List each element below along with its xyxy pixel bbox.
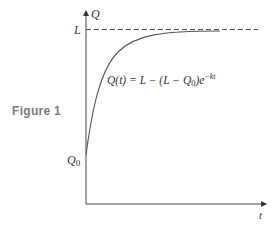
chart: Q L t Q0 Q(t) = L − (L − Q0)e−kt [0,0,275,228]
growth-curve [86,31,220,155]
asymptote-label: L [73,23,81,37]
x-axis-label: t [259,209,263,221]
initial-value-label: Q0 [67,153,81,168]
equation-annotation: Q(t) = L − (L − Q0)e−kt [107,72,216,88]
y-axis-label: Q [91,7,100,21]
